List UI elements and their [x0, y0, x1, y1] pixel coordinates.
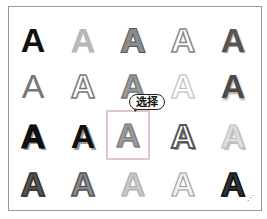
wordart-glyph: A [121, 167, 146, 201]
wordart-style-1-3[interactable]: A [113, 19, 153, 61]
wordart-style-1-4[interactable]: A [163, 19, 203, 61]
select-callout: 选择 [129, 94, 165, 110]
wordart-style-3-5[interactable]: A [213, 115, 253, 157]
wordart-glyph: A [221, 69, 246, 103]
wordart-style-2-2[interactable]: A [63, 65, 103, 107]
wordart-style-1-1[interactable]: A [13, 19, 53, 61]
wordart-style-1-5[interactable]: A [213, 19, 253, 61]
wordart-style-2-1[interactable]: A [13, 65, 53, 107]
wordart-glyph: A [171, 23, 196, 57]
wordart-style-4-2[interactable]: A [63, 163, 103, 205]
wordart-glyph: A [221, 119, 246, 153]
wordart-glyph: A [71, 119, 96, 153]
wordart-glyph: A [21, 23, 46, 57]
wordart-style-2-4[interactable]: A [163, 65, 203, 107]
wordart-glyph: A [221, 167, 246, 201]
wordart-glyph: A [21, 119, 46, 153]
wordart-glyph: A [22, 69, 45, 103]
wordart-style-3-3-selected[interactable]: A [106, 110, 150, 160]
wordart-style-1-2[interactable]: A [63, 19, 103, 61]
wordart-glyph: A [21, 167, 46, 201]
wordart-style-4-1[interactable]: A [13, 163, 53, 205]
wordart-glyph: A [171, 167, 196, 201]
wordart-glyph: A [116, 118, 141, 152]
wordart-style-4-4[interactable]: A [163, 163, 203, 205]
wordart-glyph: A [171, 69, 196, 103]
wordart-glyph: A [121, 23, 146, 57]
wordart-style-2-5[interactable]: A [213, 65, 253, 107]
wordart-glyph: A [71, 167, 96, 201]
wordart-glyph: A [71, 23, 96, 57]
wordart-glyph: A [171, 119, 196, 153]
wordart-glyph: A [71, 69, 96, 103]
wordart-style-3-1[interactable]: A [13, 115, 53, 157]
wordart-glyph: A [221, 23, 246, 57]
wordart-style-4-3[interactable]: A [113, 163, 153, 205]
resize-grip-icon[interactable]: ⋰ [247, 196, 254, 200]
wordart-style-3-4[interactable]: A [163, 115, 203, 157]
wordart-style-3-2[interactable]: A [63, 115, 103, 157]
